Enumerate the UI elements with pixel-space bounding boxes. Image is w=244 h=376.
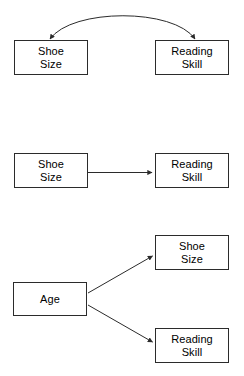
edge-age-to-shoe-size	[88, 256, 153, 293]
node-shoe-size-panel1[interactable]: Shoe Size	[14, 40, 88, 75]
node-label: Shoe Size	[38, 45, 64, 70]
node-label: Reading Skill	[171, 45, 213, 70]
node-label: Shoe Size	[179, 240, 205, 265]
diagram-canvas: Shoe Size Reading Skill Shoe Size Readin…	[0, 0, 244, 376]
node-label: Reading Skill	[171, 158, 213, 183]
node-label: Shoe Size	[38, 158, 64, 183]
node-reading-skill-panel2[interactable]: Reading Skill	[155, 153, 229, 188]
node-shoe-size-panel3[interactable]: Shoe Size	[155, 235, 229, 270]
edge-correlation-arc	[50, 16, 195, 39]
node-label: Age	[40, 293, 60, 305]
edge-age-to-reading-skill	[88, 305, 153, 342]
node-reading-skill-panel1[interactable]: Reading Skill	[155, 40, 229, 75]
node-label: Reading Skill	[171, 333, 213, 358]
node-reading-skill-panel3[interactable]: Reading Skill	[155, 328, 229, 363]
node-shoe-size-panel2[interactable]: Shoe Size	[14, 153, 88, 188]
node-age-panel3[interactable]: Age	[13, 282, 87, 316]
